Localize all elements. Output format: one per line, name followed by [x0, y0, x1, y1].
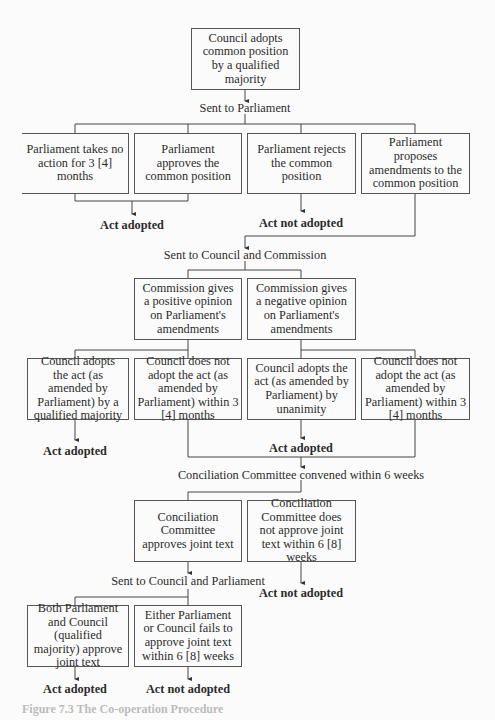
box-text: Either Parliament or Council fails to ap… [139, 609, 237, 663]
box-text: Both Parliament and Council (qualified m… [32, 602, 124, 670]
label-conciliation-convened: Conciliation Committee convened within 6… [178, 468, 424, 483]
label-sent-to-council-commission: Sent to Council and Commission [164, 248, 327, 263]
outcome-act-not-adopted: Act not adopted [259, 216, 343, 231]
outcome-act-adopted: Act adopted [43, 682, 107, 697]
outcome-act-not-adopted: Act not adopted [259, 586, 343, 601]
box-text: Parliament approves the common position [139, 143, 237, 184]
box-text: Council does not adopt the act (as amend… [136, 355, 240, 423]
box-text: Parliament proposes amendments to the co… [366, 136, 465, 190]
box-text: Parliament takes no action for 3 [4] mon… [26, 143, 124, 184]
box-council-common-position: Council adopts common position by a qual… [191, 28, 300, 90]
box-text: Commission gives a positive opinion on P… [139, 282, 237, 336]
box-council-not-adopt-positive: Council does not adopt the act (as amend… [134, 358, 242, 420]
box-conciliation-not-approve: Conciliation Committee does not approve … [247, 500, 356, 562]
box-text: Commission gives a negative opinion on P… [252, 282, 351, 336]
outcome-act-adopted: Act adopted [100, 218, 164, 233]
box-parliament-rejects: Parliament rejects the common position [247, 133, 356, 194]
box-parliament-amendments: Parliament proposes amendments to the co… [361, 133, 470, 194]
box-commission-negative: Commission gives a negative opinion on P… [247, 278, 356, 340]
box-commission-positive: Commission gives a positive opinion on P… [134, 278, 242, 340]
outcome-act-adopted: Act adopted [269, 441, 333, 456]
box-council-adopts-unanimity: Council adopts the act (as amended by Pa… [247, 358, 356, 420]
box-text: Conciliation Committee approves joint te… [139, 511, 237, 552]
figure-caption: Figure 7.3 The Co-operation Procedure [22, 702, 223, 717]
outcome-act-not-adopted: Act not adopted [146, 682, 230, 697]
box-either-fails: Either Parliament or Council fails to ap… [134, 605, 242, 667]
box-text: Council adopts common position by a qual… [196, 32, 295, 86]
connector-commission-branches [188, 270, 301, 278]
box-text: Parliament rejects the common position [252, 143, 351, 184]
connector-no-action-approve [75, 193, 188, 201]
connector-parliament-branches [75, 124, 415, 133]
box-council-not-adopt-negative: Council does not adopt the act (as amend… [361, 358, 470, 420]
flowchart-page: Council adopts common position by a qual… [0, 0, 495, 720]
box-text: Conciliation Committee does not approve … [252, 497, 351, 565]
outcome-act-adopted: Act adopted [43, 444, 107, 459]
box-conciliation-approves: Conciliation Committee approves joint te… [134, 500, 242, 562]
label-sent-to-parliament: Sent to Parliament [200, 101, 291, 116]
box-text: Council does not adopt the act (as amend… [363, 355, 468, 423]
box-parliament-approves: Parliament approves the common position [134, 133, 242, 194]
box-both-approve: Both Parliament and Council (qualified m… [27, 605, 129, 667]
box-text: Council adopts the act (as amended by Pa… [252, 362, 351, 416]
label-sent-to-council-parliament: Sent to Council and Parliament [111, 574, 265, 589]
box-text: Council adopts the act (as amended by Pa… [32, 355, 124, 423]
box-council-adopts-qualified: Council adopts the act (as amended by Pa… [27, 358, 129, 420]
box-parliament-no-action: Parliament takes no action for 3 [4] mon… [22, 133, 129, 194]
